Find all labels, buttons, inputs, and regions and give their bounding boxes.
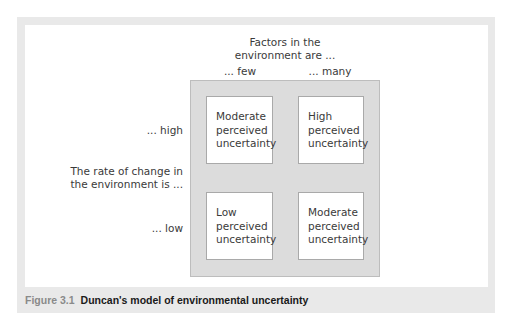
cell-text: perceived — [308, 124, 363, 138]
cell-text: uncertainty — [216, 233, 272, 247]
cell-few-low: Low perceived uncertainty — [206, 192, 273, 260]
cell-text: uncertainty — [216, 137, 272, 151]
column-axis-title-line1: Factors in the — [225, 36, 345, 49]
row-label-high: ... high — [100, 124, 183, 137]
cell-text: Moderate — [308, 206, 363, 220]
figure-caption: Figure 3.1Duncan's model of environmenta… — [25, 294, 308, 306]
cell-text: uncertainty — [308, 233, 363, 247]
cell-few-high: Moderate perceived uncertainty — [206, 96, 273, 164]
column-label-many: ... many — [300, 65, 360, 78]
cell-text: perceived — [308, 220, 363, 234]
row-axis-title-line2: the environment is ... — [60, 178, 183, 191]
cell-many-high: High perceived uncertainty — [298, 96, 364, 164]
row-axis-title-line1: The rate of change in — [60, 165, 183, 178]
cell-text: perceived — [216, 124, 272, 138]
cell-text: uncertainty — [308, 137, 363, 151]
column-axis-title: Factors in the environment are ... — [225, 36, 345, 62]
column-axis-title-line2: environment are ... — [225, 49, 345, 62]
row-label-low: ... low — [100, 222, 183, 235]
row-axis-title: The rate of change in the environment is… — [60, 165, 183, 191]
cell-text: Low — [216, 206, 272, 220]
figure-number: Figure 3.1 — [25, 294, 75, 306]
cell-text: Moderate — [216, 110, 272, 124]
cell-text: perceived — [216, 220, 272, 234]
cell-many-low: Moderate perceived uncertainty — [298, 192, 364, 260]
cell-text: High — [308, 110, 363, 124]
column-label-few: ... few — [210, 65, 270, 78]
figure-title: Duncan's model of environmental uncertai… — [81, 294, 309, 306]
